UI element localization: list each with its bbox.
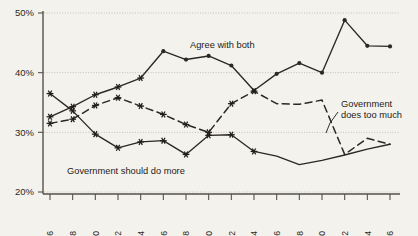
data-point-star — [47, 120, 54, 126]
series-line-government-does-too-much — [50, 91, 390, 154]
data-point-dot — [343, 18, 347, 22]
x-axis-tick-label: 1990 — [204, 231, 214, 236]
data-point-dot — [161, 49, 165, 53]
x-axis-tick-label: 1992 — [227, 231, 237, 236]
data-point-star — [137, 139, 144, 145]
annotation-does-too-much-line2: does too much — [341, 110, 402, 120]
data-point-dot — [184, 57, 188, 61]
data-point-star — [183, 122, 190, 128]
x-axis-tick-label: 2000 — [317, 231, 327, 236]
data-point-star — [160, 111, 167, 117]
y-axis-tick-label: 30% — [15, 127, 35, 138]
x-axis-tick-label: 1994 — [249, 231, 259, 236]
data-point-star — [115, 84, 122, 90]
line-chart: 20%30%40%50% 197619781980198219841986198… — [0, 0, 418, 236]
x-axis-tick-label: 1996 — [272, 231, 282, 236]
data-point-dot — [365, 44, 369, 48]
annotation-government-should-do-more: Government should do more — [67, 166, 185, 176]
y-axis-tick-label: 40% — [15, 67, 35, 78]
x-axis-tick-label: 1988 — [181, 231, 191, 236]
series-line-agree-with-both — [50, 20, 390, 117]
data-point-dot — [388, 44, 392, 48]
x-axis-tick-label: 1984 — [136, 231, 146, 236]
annotation-government-does-too-much: Government does too much — [341, 99, 402, 120]
y-axis-labels-group: 20%30%40%50% — [15, 7, 35, 197]
x-axis-tick-label: 1998 — [295, 231, 305, 236]
y-axis-tick-label: 50% — [15, 7, 35, 18]
data-point-dot — [229, 63, 233, 67]
data-point-dot — [207, 54, 211, 58]
data-point-dot — [297, 61, 301, 65]
annotation-should-do-more-label: Government should do more — [67, 166, 185, 176]
data-point-star — [47, 114, 54, 120]
y-axis-ticks-group — [38, 13, 43, 192]
x-axis-tick-label: 2004 — [363, 231, 373, 236]
x-axis-tick-label: 1976 — [45, 231, 55, 236]
series-line-government-should-do-more — [50, 94, 390, 165]
data-point-star — [115, 95, 122, 101]
annotation-agree-with-both: Agree with both — [190, 40, 255, 50]
x-axis-labels-group: 1976197819801982198419861988199019921994… — [45, 231, 395, 236]
annotation-does-too-much-line1: Government — [341, 99, 393, 109]
x-axis-tick-label: 1980 — [91, 231, 101, 236]
x-axis-tick-label: 2002 — [340, 231, 350, 236]
data-point-star — [92, 92, 99, 98]
x-axis-ticks-group — [50, 194, 390, 200]
data-point-dot — [275, 72, 279, 76]
data-point-dot — [320, 71, 324, 75]
annotation-agree-with-both-label: Agree with both — [190, 40, 255, 50]
x-axis-tick-label: 2006 — [385, 231, 395, 236]
data-point-star — [137, 103, 144, 109]
x-axis-tick-label: 1982 — [113, 231, 123, 236]
y-axis-tick-label: 20% — [15, 186, 35, 197]
x-axis-tick-label: 1986 — [159, 231, 169, 236]
x-axis-tick-label: 1978 — [68, 231, 78, 236]
chart-container: 20%30%40%50% 197619781980198219841986198… — [0, 0, 418, 236]
